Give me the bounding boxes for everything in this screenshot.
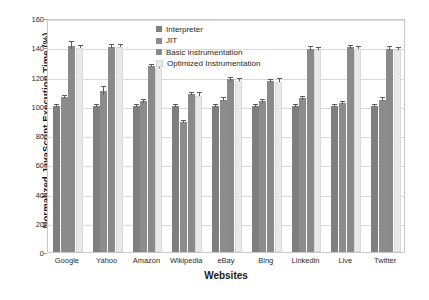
bar [100, 91, 107, 252]
error-bar [279, 79, 280, 81]
error-bar-cap [134, 104, 139, 105]
bar [212, 106, 219, 252]
error-bar [56, 105, 57, 107]
y-axis-tick-mark [44, 253, 47, 254]
error-bar-cap [149, 64, 154, 65]
error-bar [71, 42, 72, 49]
bar [394, 50, 401, 252]
error-bar [136, 105, 137, 107]
error-bar [398, 48, 399, 50]
error-bar [318, 48, 319, 50]
y-axis-tick-label: 40 [14, 190, 44, 199]
error-bar-cap [62, 95, 67, 96]
bar-group [326, 20, 366, 252]
bar [347, 47, 354, 252]
bar [307, 49, 314, 252]
error-bar-cap [316, 47, 321, 48]
y-axis-tick-label: 120 [14, 73, 44, 82]
bar [172, 106, 179, 252]
error-bar [358, 47, 359, 49]
error-bar [175, 105, 176, 107]
error-bar-cap [54, 104, 59, 105]
error-bar [342, 102, 343, 104]
y-axis-tick-mark [44, 107, 47, 108]
error-bar [270, 80, 271, 82]
error-bar-cap [277, 78, 282, 79]
bar [386, 49, 393, 252]
y-axis-tick-label: 100 [14, 102, 44, 111]
bar [314, 50, 321, 252]
error-bar [262, 100, 263, 102]
x-axis-tick-label: Yahoo [96, 256, 117, 265]
error-bar [199, 93, 200, 95]
error-bar-cap [356, 46, 361, 47]
legend-label: Basic instrumentation [166, 48, 242, 57]
error-bar [302, 97, 303, 101]
error-bar-cap [69, 41, 74, 42]
error-bar-cap [253, 104, 258, 105]
error-bar [334, 105, 335, 107]
x-axis-tick-label: Linkedin [292, 256, 320, 265]
legend-swatch-icon [156, 38, 162, 44]
bar-group [88, 20, 128, 252]
legend-swatch-icon [156, 60, 163, 67]
error-bar [230, 78, 231, 80]
bar [227, 79, 234, 252]
y-axis-tick-mark [44, 165, 47, 166]
error-bar [310, 47, 311, 50]
error-bar-cap [141, 99, 146, 100]
x-axis-title: Websites [47, 270, 405, 281]
error-bar [96, 105, 97, 107]
y-axis-tick-label: 140 [14, 44, 44, 53]
error-bar-cap [372, 104, 377, 105]
legend-item: Interpreter [156, 24, 260, 34]
bar [299, 98, 306, 252]
error-bar-cap [109, 44, 114, 45]
y-axis-tick-label: 80 [14, 132, 44, 141]
legend-item: JIT [156, 36, 260, 46]
error-bar [64, 96, 65, 98]
error-bar [80, 46, 81, 48]
error-bar-cap [221, 97, 226, 98]
bar [76, 48, 83, 252]
error-bar-cap [300, 96, 305, 97]
error-bar [151, 65, 152, 67]
error-bar-cap [268, 79, 273, 80]
error-bar-cap [181, 120, 186, 121]
bar-group [48, 20, 88, 252]
error-bar [255, 105, 256, 107]
error-bar-cap [293, 104, 298, 105]
error-bar-cap [380, 97, 385, 98]
legend-swatch-icon [156, 26, 162, 32]
legend-label: Interpreter [166, 25, 203, 34]
error-bar [239, 79, 240, 81]
bar [292, 106, 299, 252]
x-axis-tick-label: Amazon [133, 256, 161, 265]
x-axis-tick-label: eBay [217, 256, 234, 265]
error-bar-cap [78, 45, 83, 46]
y-axis-tick-mark [44, 19, 47, 20]
error-bar-cap [340, 101, 345, 102]
error-bar [183, 121, 184, 123]
x-axis-tick-label: Google [55, 256, 79, 265]
error-bar-cap [213, 104, 218, 105]
error-bar [374, 105, 375, 107]
y-axis-tick-label: 20 [14, 219, 44, 228]
x-axis-tick-label: Bing [258, 256, 273, 265]
y-axis-tick-mark [44, 78, 47, 79]
legend-item: Basic instrumentation [156, 47, 260, 57]
bar [259, 101, 266, 252]
bar [331, 106, 338, 252]
bar [133, 106, 140, 252]
bar [108, 47, 115, 252]
error-bar-cap [396, 47, 401, 48]
error-bar [143, 100, 144, 103]
error-bar [111, 45, 112, 48]
error-bar-cap [197, 92, 202, 93]
bar [140, 101, 147, 252]
bar [267, 81, 274, 252]
y-axis-tick-mark [44, 224, 47, 225]
error-bar-cap [348, 45, 353, 46]
error-bar-cap [94, 104, 99, 105]
error-bar-cap [387, 46, 392, 47]
